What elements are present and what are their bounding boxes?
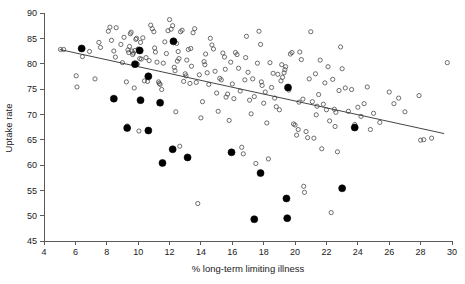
data-point-filled	[228, 149, 235, 156]
y-tick-label: 60	[27, 160, 37, 170]
y-tick-label: 85	[27, 34, 37, 44]
y-tick-label: 55	[27, 186, 37, 196]
data-point-filled	[159, 159, 166, 166]
data-point-filled	[137, 97, 144, 104]
data-point-filled	[339, 185, 346, 192]
chart-canvas: 4550556065707580859046810121416182022242…	[0, 0, 465, 284]
scatter-plot-figure: 4550556065707580859046810121416182022242…	[0, 0, 465, 284]
y-tick-label: 80	[27, 59, 37, 69]
x-tick-label: 16	[227, 247, 237, 257]
data-point-filled	[157, 99, 164, 106]
data-point-filled	[145, 73, 152, 80]
x-tick-label: 14	[196, 247, 206, 257]
data-point-filled	[169, 146, 176, 153]
data-point-filled	[110, 95, 117, 102]
data-point-filled	[145, 127, 152, 134]
y-tick-label: 75	[27, 84, 37, 94]
data-point-filled	[124, 125, 131, 132]
x-tick-label: 30	[447, 247, 457, 257]
x-tick-label: 10	[133, 247, 143, 257]
x-axis-title: % long-term limiting illness	[192, 263, 305, 274]
data-point-filled	[136, 47, 143, 54]
x-tick-label: 28	[416, 247, 426, 257]
y-tick-label: 50	[27, 211, 37, 221]
data-point-filled	[283, 195, 290, 202]
y-tick-label: 90	[27, 8, 37, 18]
data-point-filled	[284, 215, 291, 222]
y-axis-title: Uptake rate	[3, 103, 14, 152]
y-tick-label: 45	[27, 236, 37, 246]
x-tick-label: 22	[321, 247, 331, 257]
data-point-filled	[251, 216, 258, 223]
x-tick-label: 6	[73, 247, 78, 257]
data-point-filled	[285, 84, 292, 91]
data-point-filled	[132, 61, 139, 68]
y-tick-label: 70	[27, 110, 37, 120]
x-tick-label: 18	[259, 247, 269, 257]
data-point-filled	[351, 124, 358, 131]
x-tick-label: 8	[104, 247, 109, 257]
data-point-filled	[78, 45, 85, 52]
data-point-filled	[257, 170, 264, 177]
data-point-filled	[170, 38, 177, 45]
x-tick-label: 4	[41, 247, 46, 257]
x-tick-label: 24	[353, 247, 363, 257]
x-tick-label: 20	[290, 247, 300, 257]
data-point-filled	[184, 154, 191, 161]
y-tick-label: 65	[27, 135, 37, 145]
x-tick-label: 12	[165, 247, 175, 257]
x-tick-label: 26	[384, 247, 394, 257]
